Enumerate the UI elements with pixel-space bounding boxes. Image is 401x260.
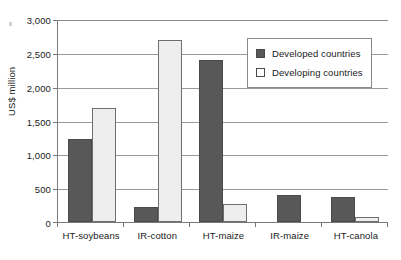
legend-swatch-developed-icon xyxy=(256,49,265,58)
x-tick-label-ht-canola: HT-canola xyxy=(323,230,389,246)
y-axis-title: US$ million xyxy=(6,67,17,116)
legend-label-developing: Developing countries xyxy=(272,67,363,78)
y-tick-mark-1000 xyxy=(53,155,58,156)
bar-developing-ht-soybeans xyxy=(92,108,116,222)
legend: Developed countries Developing countries xyxy=(247,38,372,88)
bar-chart: 3,000 2,500 2,000 1,500 1,000 500 0 US$ … xyxy=(0,0,401,260)
x-tick-label-ir-cotton: IR-cotton xyxy=(124,230,190,246)
y-axis-tick-labels: 3,000 2,500 2,000 1,500 1,000 500 0 xyxy=(0,20,51,223)
bar-developed-ht-canola xyxy=(331,197,355,222)
x-tick-label-ir-maize: IR-maize xyxy=(257,230,323,246)
legend-label-developed: Developed countries xyxy=(272,48,361,59)
y-tick-label-0: 0 xyxy=(46,218,51,229)
legend-item-developing: Developing countries xyxy=(256,63,371,82)
bar-developing-ht-maize xyxy=(223,204,247,222)
bar-developing-ht-canola xyxy=(355,217,379,222)
x-tick-mark-1 xyxy=(123,223,124,227)
x-tick-mark-4 xyxy=(321,223,322,227)
y-axis-title-wrap: US$ million xyxy=(28,20,42,223)
bar-developed-ht-maize xyxy=(199,60,223,222)
bar-developing-ir-cotton xyxy=(158,40,182,222)
y-tick-mark-2000 xyxy=(53,88,58,89)
bar-developed-ir-maize xyxy=(277,195,301,222)
bar-group-ir-cotton xyxy=(125,20,191,222)
x-tick-label-ht-soybeans: HT-soybeans xyxy=(58,230,124,246)
x-tick-mark-0 xyxy=(57,223,58,227)
y-tick-mark-3000 xyxy=(53,20,58,21)
y-tick-mark-500 xyxy=(53,189,58,190)
legend-swatch-developing-icon xyxy=(256,68,265,77)
x-axis-tick-marks xyxy=(57,223,388,228)
x-tick-mark-5 xyxy=(387,223,388,227)
y-tick-mark-1500 xyxy=(53,122,58,123)
y-tick-mark-2500 xyxy=(53,54,58,55)
bar-developed-ht-soybeans xyxy=(68,139,92,222)
x-tick-label-ht-maize: HT-maize xyxy=(190,230,256,246)
bar-developed-ir-cotton xyxy=(134,207,158,222)
x-axis-tick-labels: HT-soybeans IR-cotton HT-maize IR-maize … xyxy=(58,230,389,246)
legend-item-developed: Developed countries xyxy=(256,44,371,63)
bar-group-ht-soybeans xyxy=(59,20,125,222)
x-tick-mark-2 xyxy=(189,223,190,227)
x-tick-mark-3 xyxy=(255,223,256,227)
